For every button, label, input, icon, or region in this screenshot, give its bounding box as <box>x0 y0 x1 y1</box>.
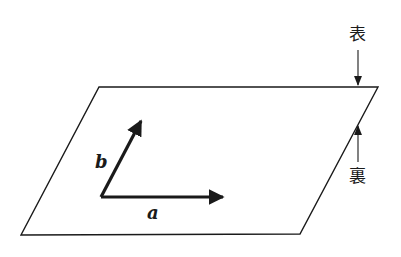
plane-parallelogram <box>21 87 378 235</box>
vector-a-label: a <box>147 202 159 223</box>
plane-vectors-diagram: a b 表 裏 <box>0 0 401 257</box>
back-side-label: 裏 <box>349 166 366 186</box>
front-side-label: 表 <box>349 24 366 44</box>
back-side-indicator: 裏 <box>349 126 366 186</box>
vector-b-label: b <box>95 151 108 172</box>
vector-a: a <box>101 197 223 223</box>
vector-b: b <box>95 121 141 197</box>
front-side-indicator: 表 <box>349 24 366 85</box>
